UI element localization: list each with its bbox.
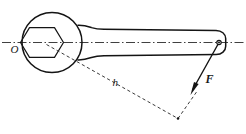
force-label-f: F — [205, 72, 214, 86]
force-arrowhead — [191, 82, 199, 95]
figure-canvas: O h F — [0, 0, 246, 134]
wrench-moment-figure: O h F — [0, 0, 246, 134]
moment-arm-label-h: h — [113, 76, 119, 88]
moment-arm-vertex — [177, 117, 180, 120]
force-line-extension-dashed — [178, 92, 197, 119]
pivot-label-o: O — [11, 43, 19, 55]
force-application-dot — [218, 42, 220, 44]
